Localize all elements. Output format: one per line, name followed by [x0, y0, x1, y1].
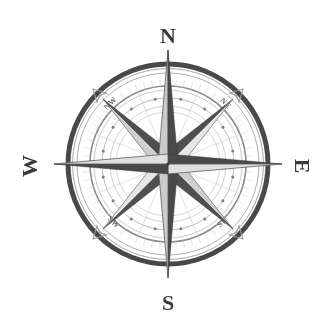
compass-rose-drawing: NWNESESW NESW	[0, 0, 331, 328]
bead-dot	[179, 98, 182, 101]
bead-dot	[231, 175, 234, 178]
bead-dot	[130, 108, 133, 111]
cardinal-label-east: E	[290, 159, 315, 174]
bead-dot	[221, 126, 224, 129]
bead-dot	[102, 175, 105, 178]
bead-dot	[112, 126, 115, 129]
bead-dot	[221, 199, 224, 202]
bead-dot	[179, 227, 182, 230]
bead-dot	[154, 227, 157, 230]
compass-rose-figure: NWNESESW NESW	[0, 0, 331, 328]
bead-dot	[154, 98, 157, 101]
bead-dot	[231, 150, 234, 153]
bead-dot	[112, 199, 115, 202]
cardinal-label-north: N	[160, 23, 176, 48]
center-pivot-dot	[166, 162, 169, 165]
bead-dot	[130, 217, 133, 220]
cardinal-label-south: S	[162, 290, 174, 315]
bead-dot	[102, 150, 105, 153]
bead-dot	[203, 217, 206, 220]
bead-dot	[203, 108, 206, 111]
cardinal-label-west: W	[17, 155, 42, 177]
